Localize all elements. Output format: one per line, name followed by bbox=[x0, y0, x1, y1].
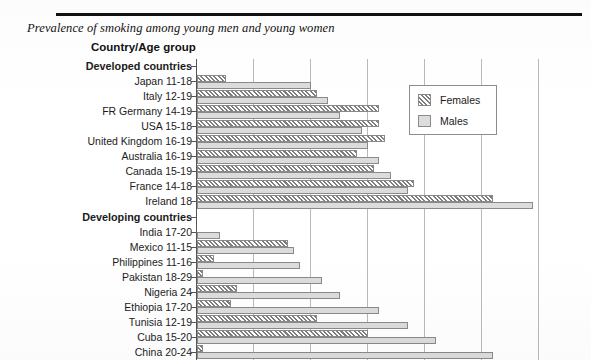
bar-males bbox=[197, 322, 408, 329]
category-label: India 17-20 bbox=[0, 226, 196, 238]
bar-males bbox=[197, 247, 294, 254]
category-label: USA 15-18 bbox=[0, 120, 196, 132]
category-label: Japan 11-18 bbox=[0, 75, 196, 87]
axis-tick bbox=[191, 96, 196, 97]
bar-males bbox=[197, 82, 311, 89]
bar-females bbox=[197, 75, 226, 82]
bar-males bbox=[197, 352, 493, 359]
bar-females bbox=[197, 180, 414, 187]
category-label: Mexico 11-15 bbox=[0, 241, 196, 253]
bar-males bbox=[197, 262, 300, 269]
bar-females bbox=[197, 150, 357, 157]
bar-females bbox=[197, 330, 368, 337]
category-label: Cuba 15-20 bbox=[0, 331, 196, 343]
bar-females bbox=[197, 165, 374, 172]
category-label: Tunisia 12-19 bbox=[0, 316, 196, 328]
axis-tick bbox=[191, 292, 196, 293]
page-title: Prevalence of smoking among young men an… bbox=[27, 21, 335, 36]
category-label: Pakistan 18-29 bbox=[0, 271, 196, 283]
axis-tick bbox=[191, 126, 196, 127]
category-label: Canada 15-19 bbox=[0, 165, 196, 177]
category-label: United Kingdom 16-19 bbox=[0, 135, 196, 147]
bar-males bbox=[197, 142, 368, 149]
category-label: Ethiopia 17-20 bbox=[0, 301, 196, 313]
axis-title: Country/Age group bbox=[91, 41, 196, 53]
axis-tick bbox=[191, 111, 196, 112]
axis-tick bbox=[191, 337, 196, 338]
category-label: Nigeria 24 bbox=[0, 286, 196, 298]
bar-males bbox=[197, 337, 436, 344]
plot-area bbox=[196, 59, 582, 360]
header-rule bbox=[56, 13, 582, 16]
legend-label-females: Females bbox=[440, 94, 480, 106]
bar-females bbox=[197, 315, 317, 322]
bar-males bbox=[197, 232, 220, 239]
bar-females bbox=[197, 255, 214, 262]
category-label: China 20-24 bbox=[0, 346, 196, 358]
axis-tick bbox=[191, 277, 196, 278]
bar-females bbox=[197, 345, 203, 352]
axis-tick bbox=[191, 186, 196, 187]
axis-tick bbox=[191, 171, 196, 172]
group-header-label: Developing countries bbox=[0, 211, 196, 223]
axis-tick bbox=[191, 66, 196, 67]
legend-label-males: Males bbox=[440, 115, 468, 127]
bar-females bbox=[197, 240, 288, 247]
axis-tick bbox=[191, 156, 196, 157]
axis-tick bbox=[191, 307, 196, 308]
bar-males bbox=[197, 112, 340, 119]
gridline bbox=[538, 59, 539, 360]
category-label: France 14-18 bbox=[0, 180, 196, 192]
bar-females bbox=[197, 105, 379, 112]
bar-males bbox=[197, 187, 408, 194]
bar-males bbox=[197, 202, 533, 209]
axis-tick bbox=[191, 352, 196, 353]
bar-males bbox=[197, 277, 322, 284]
category-label: Philippines 11-16 bbox=[0, 256, 196, 268]
axis-tick bbox=[191, 232, 196, 233]
bar-females bbox=[197, 285, 237, 292]
group-header-label: Developed countries bbox=[0, 60, 196, 72]
bar-males bbox=[197, 157, 379, 164]
legend-swatch-females-icon bbox=[418, 94, 431, 106]
axis-tick bbox=[191, 322, 196, 323]
axis-tick bbox=[191, 262, 196, 263]
axis-tick bbox=[191, 141, 196, 142]
axis-tick bbox=[191, 81, 196, 82]
axis-tick bbox=[191, 201, 196, 202]
axis-tick bbox=[191, 217, 196, 218]
category-label: Australia 16-19 bbox=[0, 150, 196, 162]
category-label: FR Germany 14-19 bbox=[0, 105, 196, 117]
bar-females bbox=[197, 120, 379, 127]
bar-females bbox=[197, 195, 493, 202]
chart-legend: Females Males bbox=[409, 85, 497, 135]
category-label: Ireland 18 bbox=[0, 195, 196, 207]
bar-males bbox=[197, 172, 391, 179]
bar-males bbox=[197, 97, 328, 104]
bar-males bbox=[197, 127, 362, 134]
bar-males bbox=[197, 292, 340, 299]
bar-females bbox=[197, 135, 385, 142]
bar-males bbox=[197, 307, 379, 314]
category-label: Italy 12-19 bbox=[0, 90, 196, 102]
axis-tick bbox=[191, 247, 196, 248]
bar-females bbox=[197, 90, 317, 97]
bar-females bbox=[197, 300, 231, 307]
legend-swatch-males-icon bbox=[418, 115, 431, 127]
bar-females bbox=[197, 270, 203, 277]
